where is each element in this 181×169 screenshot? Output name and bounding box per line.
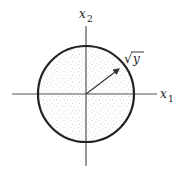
svg-text:2: 2 bbox=[87, 14, 93, 24]
svg-text:1: 1 bbox=[168, 94, 174, 104]
radius-label: √ y bbox=[124, 51, 144, 66]
svg-text:√: √ bbox=[124, 51, 133, 66]
disk-diagram: x 2 x 1 √ y bbox=[0, 0, 181, 169]
svg-text:x: x bbox=[79, 7, 86, 21]
x2-axis-label: x 2 bbox=[79, 7, 93, 24]
svg-text:x: x bbox=[160, 87, 167, 101]
svg-text:y: y bbox=[132, 52, 140, 66]
x1-axis-label: x 1 bbox=[160, 87, 174, 104]
